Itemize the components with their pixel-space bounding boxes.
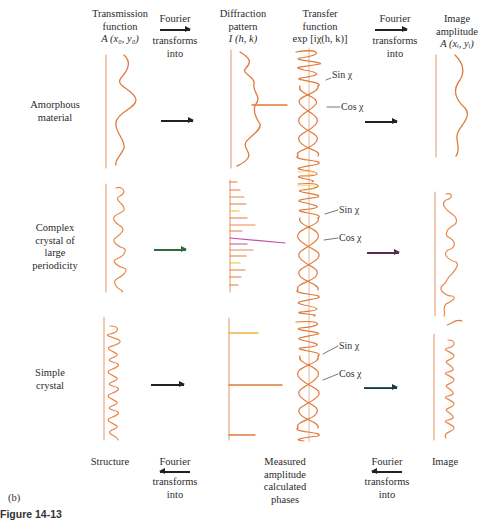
sin-chi-label: Sin χ — [332, 69, 352, 80]
simple-transmission-curve — [107, 326, 120, 440]
complex-diffraction-lines — [230, 182, 285, 285]
callout-leaders — [323, 78, 340, 380]
arrow-left-icon — [160, 471, 190, 473]
footer-fourier-bottom-left: Fourier — [145, 456, 205, 469]
complex-image-curve — [441, 194, 457, 316]
fourier-label: Fourier — [357, 456, 417, 469]
footer-image: Image — [420, 456, 470, 469]
simple-image-curve — [445, 340, 454, 438]
footer-structure: Structure — [75, 456, 145, 469]
image-curve-tail — [447, 320, 462, 325]
amorphous-image-curve — [455, 55, 467, 156]
footer-fourier-bottom-right-bottom: transforms into — [357, 476, 417, 501]
arrow-left-icon — [372, 471, 402, 473]
transforms-label: transforms — [357, 476, 417, 489]
transforms-label: transforms — [145, 476, 205, 489]
into-label: into — [357, 489, 417, 502]
complex-transmission-curve — [114, 188, 126, 292]
figure-caption: Figure 14-13 — [0, 508, 62, 520]
footer-line: phases — [250, 494, 320, 507]
fourier-label: Fourier — [145, 456, 205, 469]
amorphous-diffraction-curve — [237, 52, 260, 166]
transfer-function-coil — [296, 51, 320, 441]
into-label: into — [145, 489, 205, 502]
sin-chi-label: Sin χ — [339, 340, 359, 351]
footer-fourier-bottom-left-bottom: transforms into — [145, 476, 205, 501]
panel-label: (b) — [8, 492, 20, 503]
footer-line: amplitude — [250, 469, 320, 482]
amorphous-transmission-curve — [116, 55, 136, 165]
cos-chi-label: Cos χ — [341, 101, 364, 112]
sin-chi-label: Sin χ — [339, 204, 359, 215]
plots-canvas — [0, 0, 489, 528]
footer-line: calculated — [250, 481, 320, 494]
footer-line: Measured — [250, 456, 320, 469]
footer-fourier-bottom-right: Fourier — [357, 456, 417, 469]
cos-chi-label: Cos χ — [339, 232, 362, 243]
cos-chi-label: Cos χ — [339, 368, 362, 379]
footer-measured-amplitude: Measured amplitude calculated phases — [250, 456, 320, 506]
